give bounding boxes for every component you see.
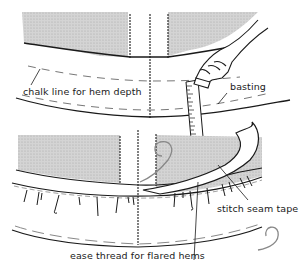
stitch-seam-tape-label: stitch seam tape — [217, 204, 298, 214]
bottom-panel — [12, 122, 278, 260]
ease-thread-label: ease thread for flared hems — [70, 251, 205, 261]
hem-diagram: chalk line for hem depth basting stitch … — [0, 0, 300, 273]
chalk-line-label: chalk line for hem depth — [23, 87, 142, 97]
skirt-shading-lower-left — [18, 135, 120, 183]
basting-label: basting — [230, 82, 266, 92]
